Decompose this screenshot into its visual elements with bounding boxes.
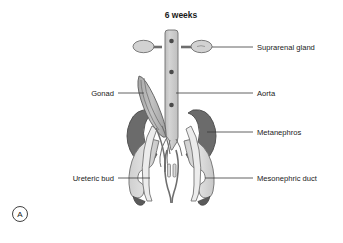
suprarenal-gland-right <box>181 40 212 52</box>
aorta-branch-dot <box>169 70 174 75</box>
label-gonad: Gonad <box>91 89 114 98</box>
diagram-title: 6 weeks <box>165 10 198 20</box>
ureteric-bud-left <box>142 126 157 201</box>
urogenital-development-diagram: 6 weeks <box>0 0 343 243</box>
label-aorta: Aorta <box>257 89 276 98</box>
panel-label-a: A <box>13 207 28 222</box>
ureteric-bud-right <box>186 126 201 201</box>
embryology-figure-panel-a: 6 weeks <box>0 0 343 243</box>
label-metanephros: Metanephros <box>257 128 302 137</box>
suprarenal-gland-left <box>133 40 162 52</box>
label-suprarenal-gland: Suprarenal gland <box>257 43 315 52</box>
aorta-branch-dot <box>169 39 174 44</box>
panel-label-text: A <box>17 210 23 219</box>
label-ureteric-bud: Ureteric bud <box>73 174 114 183</box>
aorta-branch-dot <box>169 103 174 108</box>
anatomy-group <box>127 30 216 205</box>
aorta <box>165 30 178 150</box>
label-mesonephric-duct: Mesonephric duct <box>257 174 318 183</box>
